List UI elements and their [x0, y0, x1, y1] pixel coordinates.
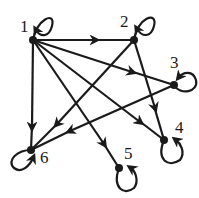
node-3	[170, 81, 178, 89]
self-loop-1	[33, 18, 53, 40]
self-loop-2	[134, 18, 155, 40]
node-1	[29, 36, 37, 44]
directed-graph: 1 2 3 4 5 6	[0, 0, 199, 198]
self-loop-3	[174, 73, 196, 92]
edge-1-4	[33, 40, 164, 140]
node-label-5: 5	[124, 144, 133, 163]
node-label-1: 1	[20, 17, 29, 36]
node-label-6: 6	[40, 148, 49, 167]
node-label-3: 3	[170, 53, 179, 72]
node-2	[130, 36, 138, 44]
node-label-2: 2	[120, 12, 129, 31]
node-5	[115, 164, 123, 172]
edge-2-4	[134, 40, 164, 140]
node-6	[27, 146, 35, 154]
edge-1-3	[33, 40, 174, 85]
node-label-4: 4	[175, 118, 184, 137]
node-4	[160, 136, 168, 144]
edge-1-6	[31, 40, 33, 150]
